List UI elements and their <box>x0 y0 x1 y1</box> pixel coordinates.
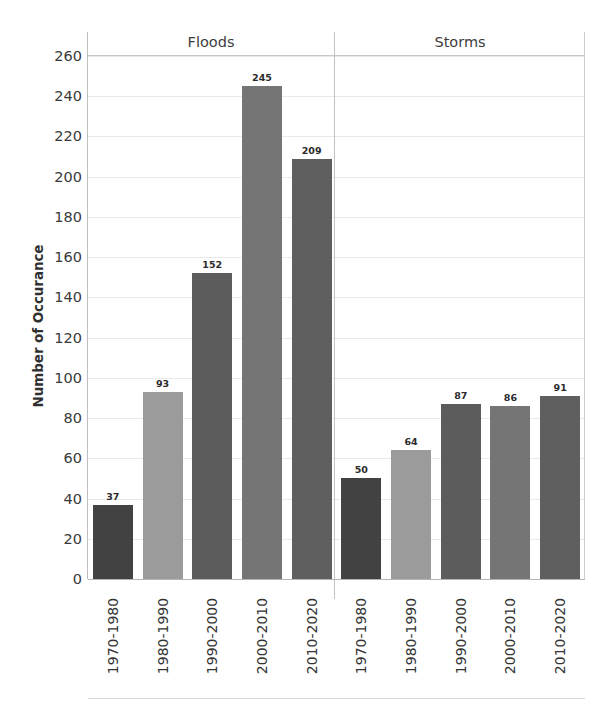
x-tick-label: 1980-1990 <box>386 580 436 698</box>
y-tick-label: 260 <box>38 49 82 63</box>
group-header-storms: Storms <box>335 32 585 56</box>
x-tick-label: 1980-1990 <box>138 580 188 698</box>
y-tick-label: 140 <box>38 290 82 304</box>
bar-column: 245 <box>242 56 282 579</box>
bar <box>192 273 232 579</box>
x-tick-text: 2010-2020 <box>304 598 320 674</box>
x-tick-text: 2010-2020 <box>552 598 568 674</box>
x-tick-label: 2000-2010 <box>237 580 287 698</box>
x-tick-text: 1980-1990 <box>155 598 171 674</box>
bar-column: 50 <box>341 56 381 579</box>
group-header-band: Floods Storms <box>88 32 585 56</box>
bar-column: 64 <box>391 56 431 579</box>
right-spine <box>584 32 585 579</box>
bar-value-label: 86 <box>504 392 517 403</box>
x-tick-label: 1990-2000 <box>436 580 486 698</box>
bar <box>391 450 431 579</box>
y-axis-line <box>87 32 88 579</box>
bar <box>490 406 530 579</box>
x-tick-label: 1970-1980 <box>337 580 387 698</box>
bar-value-label: 245 <box>252 72 272 83</box>
bar-value-label: 152 <box>202 259 222 270</box>
y-tick-label: 100 <box>38 371 82 385</box>
x-tick-label: 2000-2010 <box>486 580 536 698</box>
x-tick-label: 2010-2020 <box>287 580 337 698</box>
bar-column: 93 <box>143 56 183 579</box>
bar <box>441 404 481 579</box>
bar-column: 209 <box>292 56 332 579</box>
group-divider-line <box>334 32 335 599</box>
y-tick-label: 80 <box>38 411 82 425</box>
x-tick-text: 1990-2000 <box>453 598 469 674</box>
y-tick-label: 0 <box>38 572 82 586</box>
bar <box>143 392 183 579</box>
y-tick-label: 200 <box>38 170 82 184</box>
bar-chart-figure: Number of Occurance 26024022020018016014… <box>0 0 613 716</box>
y-tick-label: 160 <box>38 250 82 264</box>
y-tick-label: 220 <box>38 129 82 143</box>
plot-area: 37931522452095064878691 <box>88 56 585 579</box>
y-tick-label: 60 <box>38 451 82 465</box>
x-tick-text: 1990-2000 <box>204 598 220 674</box>
x-tick-text: 1980-1990 <box>403 598 419 674</box>
bar-value-label: 209 <box>302 145 322 156</box>
bar-value-label: 93 <box>156 378 169 389</box>
bar <box>341 478 381 579</box>
y-axis-tick-labels: 260240220200180160140120100806040200 <box>32 56 82 579</box>
bar-column: 87 <box>441 56 481 579</box>
x-tick-label: 1990-2000 <box>187 580 237 698</box>
bar <box>242 86 282 579</box>
y-tick-label: 180 <box>38 210 82 224</box>
x-tick-text: 2000-2010 <box>502 598 518 674</box>
group-header-floods: Floods <box>88 32 334 56</box>
bar-column: 86 <box>490 56 530 579</box>
bar-value-label: 50 <box>355 464 368 475</box>
bar <box>540 396 580 579</box>
y-tick-label: 120 <box>38 331 82 345</box>
bar-value-label: 91 <box>554 382 567 393</box>
bar-column: 37 <box>93 56 133 579</box>
x-tick-text: 2000-2010 <box>254 598 270 674</box>
bar-column: 152 <box>192 56 232 579</box>
y-tick-label: 40 <box>38 492 82 506</box>
bar-value-label: 87 <box>454 390 467 401</box>
bar-value-label: 37 <box>106 491 119 502</box>
x-tick-label: 2010-2020 <box>535 580 585 698</box>
x-tick-text: 1970-1980 <box>353 598 369 674</box>
y-tick-label: 240 <box>38 89 82 103</box>
x-axis-tick-labels: 1970-19801980-19901990-20002000-20102010… <box>88 580 585 700</box>
bar-column: 91 <box>540 56 580 579</box>
bar-value-label: 64 <box>404 436 417 447</box>
x-tick-label: 1970-1980 <box>88 580 138 698</box>
bar <box>93 505 133 579</box>
y-tick-label: 20 <box>38 532 82 546</box>
x-tick-text: 1970-1980 <box>105 598 121 674</box>
bar <box>292 159 332 579</box>
